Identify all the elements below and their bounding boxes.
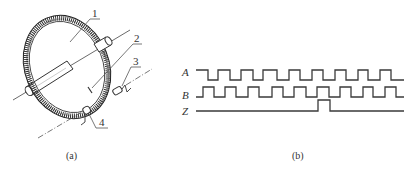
signal-label-b: B xyxy=(182,89,189,101)
signal-label-a: A xyxy=(181,66,189,78)
photo-slot-mark xyxy=(88,87,92,93)
waveform-z xyxy=(196,100,404,111)
caption-a: (a) xyxy=(66,150,77,162)
leader-3 xyxy=(122,67,141,86)
caption-b: (b) xyxy=(292,150,304,162)
label-1: 1 xyxy=(92,7,98,19)
waveform-a xyxy=(196,70,404,80)
panel-b: A B Z (b) xyxy=(181,66,404,162)
encoder-diagram: 1 2 3 4 (a) A B Z (b) xyxy=(0,0,414,170)
panel-a: 1 2 3 4 (a) xyxy=(8,2,152,162)
waveform-b xyxy=(196,87,404,97)
label-3: 3 xyxy=(133,55,139,67)
label-4: 4 xyxy=(99,116,105,128)
signal-label-z: Z xyxy=(182,105,189,117)
shaft-front xyxy=(94,36,113,52)
light-path-line-upper xyxy=(126,69,152,85)
label-2: 2 xyxy=(134,32,140,44)
light-source-3 xyxy=(112,85,131,96)
